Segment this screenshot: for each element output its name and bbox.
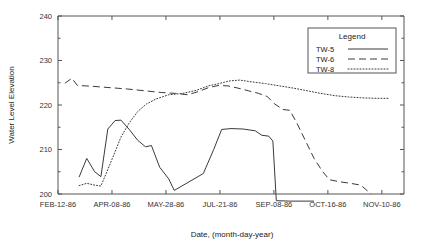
data-series-group [65, 78, 389, 201]
series-line-tw-5 [79, 120, 314, 201]
y-tick-label: 200 [39, 190, 52, 199]
legend: Legend TW-5TW-6TW-8 [308, 28, 396, 74]
y-axis-title: Water Level Elevation [7, 66, 16, 144]
x-tick-label: JUL-21-86 [202, 200, 237, 209]
y-tick-label: 240 [39, 12, 52, 21]
legend-label-tw-6: TW-6 [316, 55, 334, 64]
legend-title: Legend [339, 32, 366, 41]
chart-svg: 200210220230240 FEB-12-86APR-08-86MAY-28… [0, 0, 425, 247]
x-tick-label: MAY-28-86 [148, 200, 185, 209]
x-axis-tick-labels: FEB-12-86APR-08-86MAY-28-86JUL-21-86SEP-… [40, 200, 401, 209]
y-tick-label: 230 [39, 56, 52, 65]
x-axis-title: Date, (month-day-year) [191, 230, 274, 239]
x-tick-label: OCT-16-86 [309, 200, 346, 209]
series-line-tw-6 [65, 78, 371, 194]
y-tick-label: 220 [39, 101, 52, 110]
legend-label-tw-8: TW-8 [316, 65, 334, 74]
y-axis-tick-labels: 200210220230240 [39, 12, 52, 199]
legend-label-tw-5: TW-5 [316, 45, 334, 54]
x-tick-label: NOV-10-86 [363, 200, 401, 209]
x-tick-label: FEB-12-86 [40, 200, 76, 209]
series-line-tw-8 [79, 80, 388, 186]
y-tick-label: 210 [39, 145, 52, 154]
x-tick-label: APR-08-86 [93, 200, 130, 209]
water-level-chart: 200210220230240 FEB-12-86APR-08-86MAY-28… [0, 0, 425, 247]
